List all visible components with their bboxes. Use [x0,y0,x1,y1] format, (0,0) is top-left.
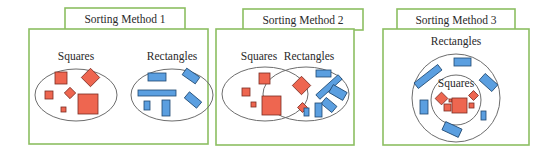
rectangles-label: Rectangles [147,50,198,63]
squares-label: Squares [241,50,278,63]
rectangle-shape [162,100,170,116]
rectangle-shape [315,103,322,117]
square-shape [262,96,281,115]
rectangles-label: Rectangles [431,35,482,48]
square-shape [251,102,256,107]
square-shape [259,73,270,84]
square-shape [444,104,451,111]
panel-sorting-method-3: Sorting Method 3 Rectangles Squares [383,9,529,145]
square-shape [78,94,98,114]
rectangle-shape [420,100,428,114]
panel-1-title: Sorting Method 1 [84,13,165,26]
squares-label: Squares [58,50,95,63]
square-shape [45,91,53,99]
squares-label: Squares [438,77,475,90]
rectangle-shape [316,70,331,77]
square-shape [449,99,452,102]
square-shape [469,103,474,108]
rectangle-shape [481,111,486,120]
panel-1-frame [29,29,208,144]
square-shape [452,98,467,113]
panel-sorting-method-1: Sorting Method 1 Squares Rectangles [29,8,213,144]
rectangle-shape [144,101,150,110]
square-shape [55,72,67,84]
panel-2-title: Sorting Method 2 [262,14,343,27]
rectangle-shape [138,90,176,96]
panel-sorting-method-2: Sorting Method 2 Squares Rectangles [216,9,363,145]
square-shape [242,88,250,96]
sorting-methods-diagram: .frame { fill: #ffffff; stroke: #8cbf62;… [0,0,554,157]
rectangle-shape [454,58,471,66]
square-shape [61,107,66,112]
panel-3-title: Sorting Method 3 [415,14,496,27]
rectangle-shape [304,108,309,116]
rectangles-label: Rectangles [284,50,335,63]
rectangle-shape [148,73,166,81]
